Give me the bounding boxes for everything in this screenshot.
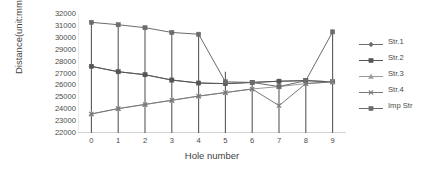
y-axis-tick-label: 24000: [55, 105, 76, 113]
legend-item-label: Str.1: [388, 37, 404, 47]
x-axis-tick-label: 2: [138, 136, 152, 146]
series-str-4: [89, 80, 334, 116]
legend-marker-icon: [358, 84, 384, 95]
x-axis-tick-label: 8: [299, 136, 313, 146]
plot-area: [78, 14, 346, 133]
legend-item-str-3[interactable]: Str.3: [358, 66, 434, 81]
y-axis-tick-label: 27000: [55, 70, 76, 78]
legend-item-str-1[interactable]: Str.1: [358, 34, 434, 49]
y-axis-tick-label: 25000: [55, 93, 76, 101]
series-str-3: [89, 79, 335, 116]
y-axis-title: Distance(unit:mm): [13, 0, 24, 98]
x-axis-tick-label: 0: [84, 136, 98, 146]
y-axis-tick-label: 32000: [55, 10, 76, 18]
x-axis-tick-label: 5: [218, 136, 232, 146]
series-imp-str: [89, 20, 334, 88]
x-axis-tick-label: 3: [165, 136, 179, 146]
legend-marker-icon: [358, 36, 384, 47]
y-axis-tick-label: 30000: [55, 34, 76, 42]
x-axis-tick-label: 1: [111, 136, 125, 146]
x-axis-title: Hole number: [78, 150, 346, 161]
y-axis-tick-labels: 3200031000300002900028000270002600025000…: [28, 0, 76, 177]
x-axis-tick-label: 6: [245, 136, 259, 146]
legend-item-str-2[interactable]: Str.2: [358, 50, 434, 65]
legend-item-label: Str.4: [388, 85, 404, 95]
y-axis-tick-label: 22000: [55, 129, 76, 137]
y-axis-tick-label: 28000: [55, 58, 76, 66]
legend-marker-icon: [358, 100, 384, 111]
range-bars: [91, 22, 332, 133]
chart-plot-svg: [78, 14, 346, 133]
legend-item-str-4[interactable]: Str.4: [358, 82, 434, 97]
legend-item-label: Str.3: [388, 69, 404, 79]
chart-container: Distance(unit:mm) 3200031000300002900028…: [0, 0, 435, 177]
y-axis-tick-label: 23000: [55, 117, 76, 125]
x-axis-tick-labels: 0123456789: [78, 136, 346, 148]
y-axis-tick-label: 31000: [55, 22, 76, 30]
x-axis-tick-label: 7: [272, 136, 286, 146]
legend-marker-icon: [358, 68, 384, 79]
legend-marker-icon: [358, 52, 384, 63]
x-axis-tick-label: 9: [326, 136, 340, 146]
y-axis-tick-label: 29000: [55, 46, 76, 54]
x-axis-tick-label: 4: [192, 136, 206, 146]
legend-item-imp-str[interactable]: Imp Str: [358, 98, 434, 113]
chart-legend: Str.1Str.2Str.3Str.4Imp Str: [358, 34, 434, 114]
legend-item-label: Str.2: [388, 53, 404, 63]
legend-item-label: Imp Str: [388, 101, 412, 111]
y-axis-tick-label: 26000: [55, 81, 76, 89]
